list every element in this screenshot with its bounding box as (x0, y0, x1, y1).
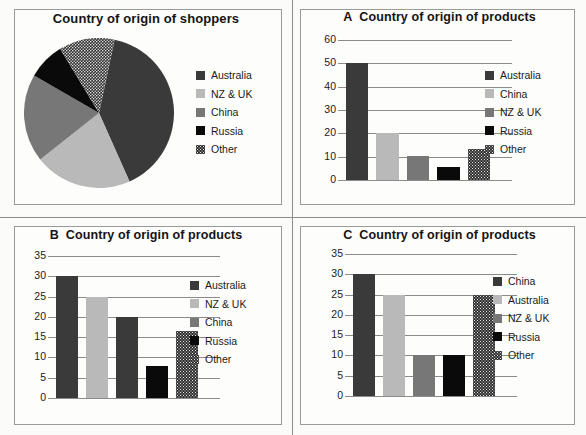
y-axis-tick-label: 25 (22, 291, 46, 302)
legend-swatch-icon (190, 318, 199, 327)
y-axis-tick-label: 35 (319, 248, 343, 259)
y-axis-tick-label: 0 (319, 390, 343, 401)
legend-label: Russia (205, 336, 237, 347)
y-axis-tick-label: 10 (319, 349, 343, 360)
y-axis-tick-label: 60 (312, 34, 336, 45)
bar-slot (403, 40, 433, 180)
legend-item: Russia (190, 336, 246, 347)
pie-chart (24, 38, 174, 188)
legend-item: Other (190, 354, 246, 365)
y-axis-tick-label: 15 (319, 329, 343, 340)
bar-slot (433, 40, 463, 180)
legend-swatch-icon (485, 108, 494, 117)
chart-b-title-text: Country of origin of products (66, 228, 243, 242)
y-axis-tick-label: 20 (312, 127, 336, 138)
y-axis-tick-label: 35 (22, 250, 46, 261)
bar-china (376, 133, 399, 180)
legend-label: Other (211, 144, 237, 155)
bar-china (353, 274, 375, 396)
legend-swatch-icon (485, 71, 494, 80)
legend-label: Other (508, 350, 534, 361)
legend-label: Russia (500, 126, 532, 137)
figure-grid: Country of origin of shoppers AustraliaN… (0, 0, 586, 435)
legend-item: China (196, 107, 252, 118)
gridline (48, 398, 220, 399)
bar-russia (443, 355, 465, 396)
y-axis-tick-label: 50 (312, 57, 336, 68)
legend-item: Russia (196, 126, 252, 137)
legend-label: NZ & UK (211, 89, 252, 100)
bar-nz-uk (407, 156, 430, 181)
y-axis-tick-label: 30 (312, 104, 336, 115)
legend-item: China (485, 89, 541, 100)
legend-swatch-icon (493, 332, 502, 341)
legend-swatch-icon (485, 126, 494, 135)
legend-label: NZ & UK (205, 299, 246, 310)
y-axis-tick-label: 20 (22, 311, 46, 322)
bar-slot (379, 254, 409, 396)
chart-c-title-text: Country of origin of products (359, 228, 536, 242)
legend-item: NZ & UK (485, 107, 541, 118)
legend-item: China (190, 317, 246, 328)
panel-pie-shoppers: Country of origin of shoppers AustraliaN… (0, 0, 293, 218)
legend-label: Russia (508, 332, 540, 343)
chart-a-title-text: Country of origin of products (359, 10, 536, 24)
legend-item: Other (196, 144, 252, 155)
legend-item: Australia (196, 70, 252, 81)
legend-item: Russia (493, 332, 549, 343)
bar-nz-uk (413, 355, 435, 396)
gridline (338, 180, 512, 181)
y-axis-tick-label: 0 (312, 174, 336, 185)
legend-item: Australia (485, 70, 541, 81)
legend-label: Australia (500, 70, 541, 81)
bar-slot (82, 256, 112, 398)
legend-label: Australia (211, 70, 252, 81)
bar-slot (342, 40, 372, 180)
legend-item: NZ & UK (196, 89, 252, 100)
legend-item: Russia (485, 126, 541, 137)
panel-chart-b: BCountry of origin of products 051015202… (0, 218, 293, 435)
y-axis-tick-label: 30 (22, 270, 46, 281)
bar-russia (146, 366, 168, 398)
legend-swatch-icon (196, 89, 205, 98)
chart-a-label: A (343, 10, 352, 24)
chart-c-label: C (343, 228, 352, 242)
bar-slot (349, 254, 379, 396)
y-axis-tick-label: 10 (312, 151, 336, 162)
legend-item: Other (485, 144, 541, 155)
chart-b-legend: AustraliaNZ & UKChinaRussiaOther (190, 280, 246, 365)
legend-swatch-icon (493, 295, 502, 304)
gridline (345, 396, 517, 397)
bar-slot (142, 256, 172, 398)
legend-label: Russia (211, 126, 243, 137)
legend-swatch-icon (485, 145, 494, 154)
legend-swatch-icon (190, 355, 199, 364)
bar-slot (52, 256, 82, 398)
bar-slot (409, 254, 439, 396)
legend-label: China (205, 317, 232, 328)
bar-slot (439, 254, 469, 396)
legend-swatch-icon (493, 314, 502, 323)
panel-chart-a: ACountry of origin of products 010203040… (293, 0, 586, 218)
chart-a-title: ACountry of origin of products (293, 10, 586, 24)
y-axis-tick-label: 0 (22, 392, 46, 403)
legend-item: NZ & UK (190, 299, 246, 310)
bar-australia (56, 276, 78, 398)
bar-other (473, 295, 495, 396)
y-axis-tick-label: 25 (319, 289, 343, 300)
legend-label: China (500, 89, 527, 100)
legend-item: Other (493, 350, 549, 361)
legend-label: China (211, 107, 238, 118)
legend-label: NZ & UK (500, 107, 541, 118)
legend-label: Other (500, 144, 526, 155)
legend-label: Australia (205, 280, 246, 291)
legend-item: Australia (190, 280, 246, 291)
bar-china (116, 317, 138, 398)
legend-label: Australia (508, 295, 549, 306)
legend-item: Australia (493, 295, 549, 306)
bar-australia (383, 295, 405, 396)
bar-australia (346, 63, 369, 180)
y-axis-tick-label: 30 (319, 268, 343, 279)
bar-series (342, 40, 494, 180)
bar-russia (437, 167, 460, 180)
